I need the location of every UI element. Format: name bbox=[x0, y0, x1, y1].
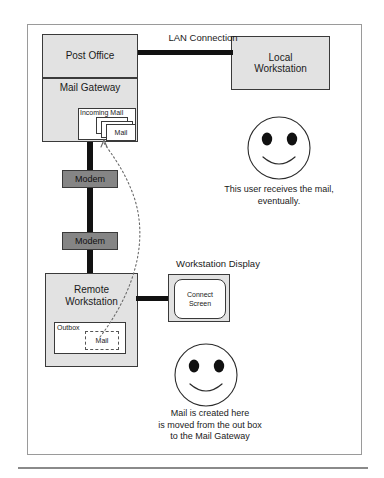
link-modem-to-remote-workstation bbox=[87, 250, 93, 273]
footer-rule bbox=[18, 467, 368, 469]
link-gateway-to-modem bbox=[87, 142, 93, 170]
node-post-office[interactable]: Post Office bbox=[42, 34, 138, 78]
diagram-canvas: Post Office Mail Gateway Local Workstati… bbox=[0, 0, 384, 478]
node-outbox-label: Outbox bbox=[57, 324, 80, 331]
node-local-workstation[interactable]: Local Workstation bbox=[231, 36, 330, 90]
node-connect-screen-label: Connect Screen bbox=[187, 290, 213, 308]
sender-caption: Mail is created here is moved from the o… bbox=[140, 408, 280, 443]
mail-sheet-front-label: Mail bbox=[115, 129, 128, 136]
mail-sheet-front[interactable]: Mail bbox=[106, 124, 136, 141]
mail-gateway-divider bbox=[42, 78, 138, 79]
workstation-display-label: Workstation Display bbox=[163, 259, 273, 270]
node-modem-lower[interactable]: Modem bbox=[62, 232, 118, 250]
node-connect-screen[interactable]: Connect Screen bbox=[174, 279, 226, 319]
lan-connection-label: LAN Connection bbox=[148, 33, 258, 44]
node-mail-gateway-label: Mail Gateway bbox=[60, 82, 121, 94]
node-post-office-label: Post Office bbox=[66, 50, 115, 62]
link-modem-to-modem bbox=[87, 188, 93, 232]
link-remote-workstation-to-display bbox=[136, 296, 169, 301]
node-incoming-mail-label: Incoming Mail bbox=[80, 109, 123, 116]
lan-connection-line bbox=[138, 50, 233, 55]
node-modem-upper-label: Modem bbox=[75, 174, 105, 184]
node-outbox-mail-label: Mail bbox=[96, 337, 109, 344]
node-outbox-mail[interactable]: Mail bbox=[85, 331, 119, 350]
node-remote-workstation-label: Remote Workstation bbox=[65, 284, 118, 307]
node-local-workstation-label: Local Workstation bbox=[254, 52, 307, 75]
node-modem-lower-label: Modem bbox=[75, 236, 105, 246]
node-modem-upper[interactable]: Modem bbox=[62, 170, 118, 188]
receiver-caption: This user receives the mail, eventually. bbox=[213, 184, 345, 207]
